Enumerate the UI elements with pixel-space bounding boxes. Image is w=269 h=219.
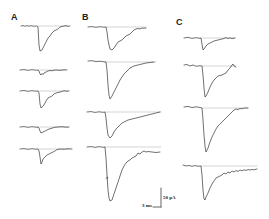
panel-label-c: C	[176, 17, 183, 27]
panel-b-traces	[87, 27, 161, 201]
trace-a5	[20, 149, 72, 164]
trace-b4	[87, 147, 161, 201]
electrophysiology-figure: A B C 3 ms 50 pA	[0, 0, 269, 219]
trace-c1	[184, 37, 235, 50]
panel-a-traces	[20, 26, 72, 165]
trace-b3	[87, 112, 161, 138]
panel-c-traces	[183, 37, 257, 200]
trace-a4	[20, 127, 69, 133]
trace-a1	[21, 26, 70, 52]
panel-label-a: A	[11, 12, 18, 22]
trace-c4	[183, 165, 257, 200]
traces-canvas	[0, 0, 269, 219]
trace-a2	[20, 70, 67, 75]
panel-label-b: B	[82, 12, 89, 22]
trace-c2	[184, 64, 236, 97]
scale-bar-time-label: 3 ms	[142, 203, 152, 208]
scale-bar	[153, 188, 161, 207]
scale-bar-current-label: 50 pA	[163, 195, 176, 200]
trace-b2	[88, 61, 156, 99]
trace-a3	[20, 91, 69, 109]
trace-b1	[88, 27, 146, 50]
trace-c3	[184, 106, 248, 152]
